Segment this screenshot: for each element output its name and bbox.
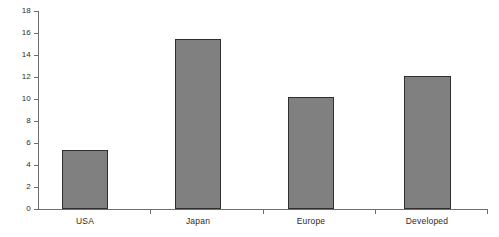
- y-tick-label-18: 18: [3, 7, 31, 15]
- x-cat-label-developed: Developed: [386, 216, 468, 226]
- x-tick-mark-2: [263, 209, 264, 214]
- bar-chart: 18 16 14 12 10 8 6 4 2: [0, 0, 499, 237]
- y-tick-label-0: 0: [3, 205, 31, 213]
- y-tick-label-4: 4: [3, 161, 31, 169]
- plot-area: [38, 11, 487, 209]
- y-tick-label-2: 2: [3, 183, 31, 191]
- bar-developed: [404, 76, 451, 209]
- x-tick-mark-1: [150, 209, 151, 214]
- x-cat-label-europe: Europe: [273, 216, 349, 226]
- y-tick-label-12: 12: [3, 73, 31, 81]
- y-tick-label-16: 16: [3, 29, 31, 37]
- x-cat-label-usa: USA: [47, 216, 123, 226]
- bar-europe: [288, 97, 334, 209]
- y-tick-label-14: 14: [3, 51, 31, 59]
- y-tick-label-6: 6: [3, 139, 31, 147]
- y-tick-label-8: 8: [3, 117, 31, 125]
- bar-usa: [62, 150, 108, 209]
- x-cat-label-japan: Japan: [160, 216, 236, 226]
- y-tick-label-10: 10: [3, 95, 31, 103]
- x-tick-mark-end: [487, 209, 488, 214]
- bar-japan: [175, 39, 221, 210]
- x-tick-mark-3: [375, 209, 376, 214]
